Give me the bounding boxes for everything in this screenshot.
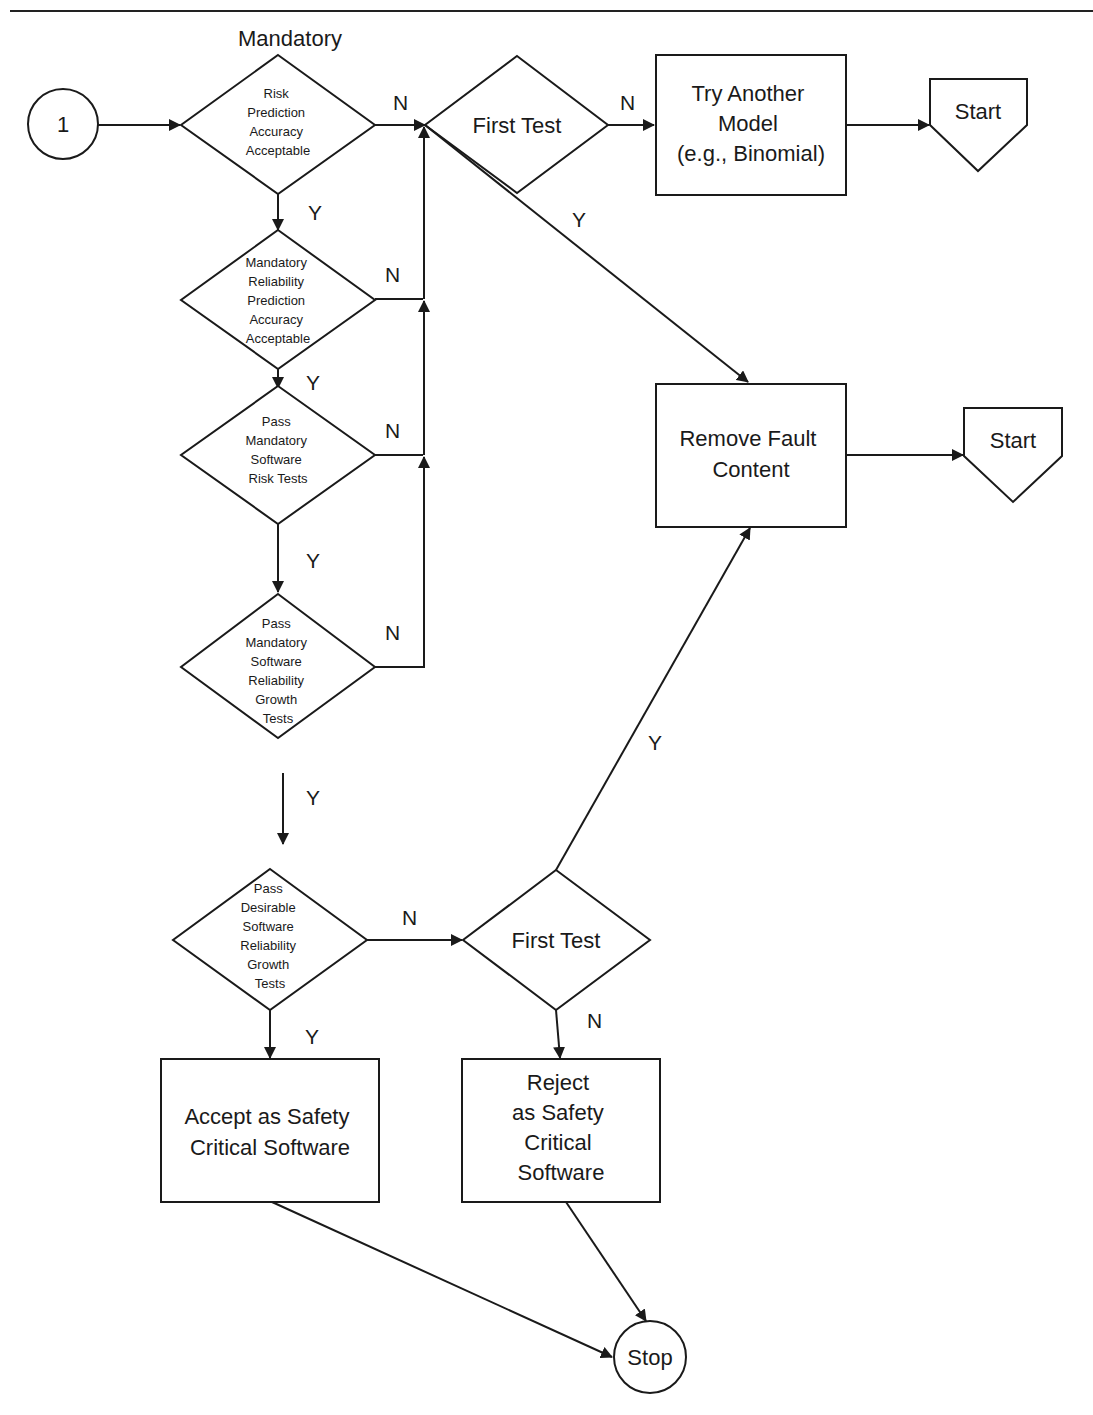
decision-risk-tests[interactable]: Pass Mandatory Software Risk Tests [181,386,375,524]
decision-risk-tests-line: Pass [262,414,291,429]
accept-line: Critical Software [190,1135,350,1160]
edge-label-reliability-n: N [385,263,400,286]
decision-growth-line: Tests [263,711,294,726]
edge-label-first-test-bottom-n: N [587,1009,602,1032]
edge-label-growth-y: Y [306,786,320,809]
start-top-label: Start [955,99,1001,124]
reject-line: Critical [524,1130,591,1155]
accept-line: Accept as Safety [184,1104,349,1129]
edge-label-desirable-y: Y [305,1025,319,1048]
decision-first-test-bottom[interactable]: First Test [463,870,650,1010]
decision-risk-line: Accuracy [249,124,303,139]
remove-fault-line: Content [712,457,789,482]
connector-1-node[interactable]: 1 [28,89,98,159]
first-test-top-label: First Test [473,113,562,138]
decision-risk-line: Prediction [247,105,305,120]
decision-growth-line: Software [251,654,302,669]
decision-risk-tests-line: Mandatory [245,433,307,448]
decision-reliability-line: Prediction [247,293,305,308]
decision-desirable-line: Pass [254,881,283,896]
try-another-line: Try Another [691,81,804,106]
decision-reliability-line: Mandatory [245,255,307,270]
edge-label-growth-n: N [385,621,400,644]
start-connector-top[interactable]: Start [930,79,1027,171]
stop-label: Stop [627,1345,672,1370]
edge-first-test-bottom-n [556,1010,560,1058]
decision-desirable-line: Desirable [241,900,296,915]
edge-label-reliability-y: Y [306,371,320,394]
reject-line: Software [518,1160,605,1185]
edge-label-first-test-top-y: Y [572,208,586,231]
edge-label-first-test-bottom-y: Y [648,731,662,754]
process-try-another-model[interactable]: Try Another Model (e.g., Binomial) [656,55,846,195]
decision-desirable-line: Reliability [240,938,296,953]
decision-risk-prediction[interactable]: Risk Prediction Accuracy Acceptable [181,55,375,194]
process-remove-fault-content[interactable]: Remove Fault Content [656,384,846,527]
decision-growth-line: Growth [255,692,297,707]
try-another-line: Model [718,111,778,136]
reject-line: Reject [527,1070,589,1095]
try-another-line: (e.g., Binomial) [677,141,825,166]
connector-1-label: 1 [57,112,69,137]
decision-first-test-top[interactable]: First Test [425,56,608,193]
edge-label-risk-tests-y: Y [306,549,320,572]
decision-reliability-line: Accuracy [249,312,303,327]
start-mid-label: Start [990,428,1036,453]
decision-growth-line: Reliability [248,673,304,688]
decision-risk-tests-line: Risk Tests [249,471,308,486]
decision-growth-line: Mandatory [245,635,307,650]
remove-fault-line: Remove Fault [679,426,816,451]
edge-label-risk-n: N [393,91,408,114]
decision-risk-tests-line: Software [251,452,302,467]
svg-text:Mandatory Reliability: Mandatory Reliability Prediction Accurac… [245,255,310,346]
decision-risk-line: Acceptable [246,143,310,158]
process-accept-safety-critical[interactable]: Accept as Safety Critical Software [161,1059,379,1202]
reject-line: as Safety [512,1100,604,1125]
decision-desirable-line: Software [243,919,294,934]
edge-label-risk-tests-n: N [385,419,400,442]
decision-growth-line: Pass [262,616,291,631]
terminator-stop[interactable]: Stop [614,1321,686,1393]
decision-growth-tests[interactable]: Pass Mandatory Software Reliability Grow… [181,594,375,738]
decision-risk-line: Risk [264,86,290,101]
first-test-bottom-label: First Test [512,928,601,953]
mandatory-heading: Mandatory [238,26,342,51]
edge-label-first-test-top-n: N [620,91,635,114]
decision-reliability-line: Acceptable [246,331,310,346]
edge-reject-to-stop [566,1202,646,1321]
decision-desirable-growth-tests[interactable]: Pass Desirable Software Reliability Grow… [173,869,367,1010]
edge-label-desirable-n: N [402,906,417,929]
edge-first-test-bottom-y [556,528,750,870]
decision-reliability-line: Reliability [248,274,304,289]
decision-desirable-line: Growth [247,957,289,972]
decision-mandatory-reliability[interactable]: Mandatory Reliability Prediction Accurac… [181,230,375,369]
flowchart: Mandatory 1 Risk Prediction Accuracy Acc… [0,0,1093,1415]
decision-desirable-line: Tests [255,976,286,991]
edge-accept-to-stop [272,1202,612,1357]
edge-label-risk-y: Y [308,201,322,224]
process-reject-safety-critical[interactable]: Reject as Safety Critical Software [462,1059,660,1202]
start-connector-mid[interactable]: Start [964,408,1062,502]
